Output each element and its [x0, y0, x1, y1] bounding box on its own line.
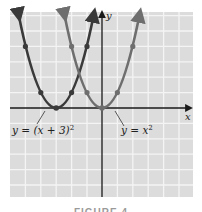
label-base-parabola: y = x2 — [120, 124, 153, 136]
parabola-shift-chart: x y y = (x + 3)2 y = x2 FIGURE 4 — [0, 0, 202, 212]
label-shifted-parabola: y = (x + 3)2 — [11, 124, 74, 136]
y-axis-label: y — [105, 10, 112, 21]
figure-caption: FIGURE 4 — [74, 207, 128, 212]
x-axis-label: x — [185, 111, 191, 122]
